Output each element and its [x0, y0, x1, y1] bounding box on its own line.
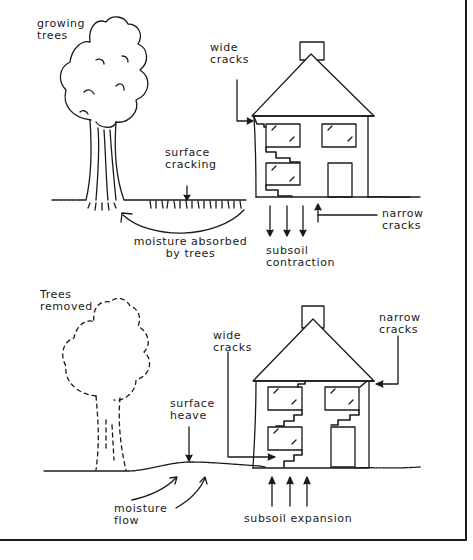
label-trees-removed: Trees removed — [40, 289, 93, 313]
house-heaving-icon — [228, 306, 398, 468]
ground-heave-line — [44, 427, 420, 471]
frame-border — [0, 0, 466, 540]
label-subsoil-contraction: subsoil contraction — [266, 245, 335, 269]
label-wide-cracks-bottom: wide cracks — [213, 330, 252, 354]
surface-cracking-marks — [150, 186, 241, 208]
subsoil-contraction-arrows — [267, 206, 306, 236]
label-moisture-absorbed: moisture absorbed by trees — [133, 236, 248, 260]
label-growing-trees: growing trees — [37, 18, 85, 42]
moisture-absorbed-arrow — [121, 210, 244, 233]
label-surface-heave: surface heave — [170, 398, 215, 422]
label-narrow-cracks-bottom: narrow cracks — [379, 312, 421, 336]
label-subsoil-expansion: subsoil expansion — [244, 513, 352, 525]
removed-tree-icon — [63, 299, 150, 470]
diagram-drawing — [0, 0, 473, 560]
house-contracting-icon — [237, 42, 420, 222]
subsoil-expansion-arrows — [269, 477, 310, 506]
label-wide-cracks-top: wide cracks — [210, 42, 249, 66]
label-moisture-flow: moisture flow — [114, 503, 167, 527]
label-narrow-cracks-top: narrow cracks — [382, 208, 424, 232]
subsidence-heave-diagram: growing trees wide cracks surface cracki… — [0, 0, 473, 560]
label-surface-cracking: surface cracking — [165, 147, 217, 171]
